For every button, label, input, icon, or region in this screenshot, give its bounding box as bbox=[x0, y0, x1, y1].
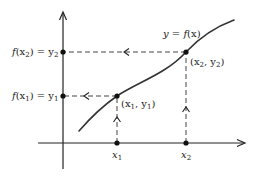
function-curve bbox=[79, 20, 234, 131]
x2-axis-dot bbox=[183, 140, 188, 145]
p1-open: (x bbox=[121, 98, 131, 109]
p1-mid: , y bbox=[135, 98, 147, 109]
fy2-ysub: 2 bbox=[54, 51, 58, 59]
x1-sub: 1 bbox=[118, 154, 122, 162]
p2-open: (x bbox=[190, 56, 200, 67]
point-2-dot bbox=[183, 49, 188, 54]
y1-axis-label: f(x1) = y1 bbox=[12, 91, 58, 103]
y1-axis-dot bbox=[60, 93, 65, 98]
curve-label: y = f(x) bbox=[163, 29, 201, 39]
curve-label-y: y = bbox=[163, 28, 183, 39]
fy1-eq: = y bbox=[34, 90, 54, 101]
point-2-label: (x2, y2) bbox=[190, 57, 224, 69]
x2-sub: 2 bbox=[187, 154, 191, 162]
fy1-open: (x bbox=[16, 90, 26, 101]
x-axis bbox=[38, 140, 245, 147]
x1-axis-dot bbox=[114, 140, 119, 145]
fy2-open: (x bbox=[16, 46, 26, 57]
x2-axis-label: x2 bbox=[181, 150, 191, 162]
y2-axis-label: f(x2) = y2 bbox=[12, 47, 58, 59]
p2-mid: , y bbox=[204, 56, 216, 67]
fy2-eq: = y bbox=[34, 46, 54, 57]
x1-axis-label: x1 bbox=[112, 150, 122, 162]
fy1-ysub: 1 bbox=[54, 95, 58, 103]
curve-label-arg: (x) bbox=[187, 28, 200, 39]
p2-close: ) bbox=[221, 56, 225, 67]
point-1-label: (x1, y1) bbox=[121, 99, 155, 111]
p1-close: ) bbox=[152, 98, 156, 109]
up-arrow-icon bbox=[114, 117, 121, 122]
y-axis bbox=[60, 12, 67, 169]
y2-axis-dot bbox=[60, 49, 65, 54]
point-1-dot bbox=[114, 93, 119, 98]
